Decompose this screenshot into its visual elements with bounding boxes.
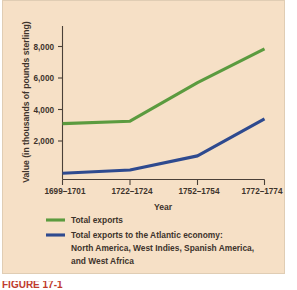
series-line-atlantic-economy [63, 119, 265, 173]
legend-label-atlantic-economy-line2: North America, West Indies, Spanish Amer… [71, 243, 254, 253]
figure-root: 8,000 6,000 4,000 2,000 Value (in thousa… [0, 0, 297, 290]
y-tick-label-2000: 2,000 [34, 137, 55, 146]
y-tick-label-4000: 4,000 [34, 106, 55, 115]
y-axis-title: Value (in thousands of pounds sterling) [21, 21, 31, 183]
figure-caption-text: FIGURE 17-1 [2, 281, 63, 290]
x-tick-label-2: 1752–1754 [179, 187, 220, 196]
chart-panel: 8,000 6,000 4,000 2,000 Value (in thousa… [2, 0, 285, 274]
x-axis-tick-labels: 1699–1701 1722–1724 1752–1754 1772–1774 [45, 187, 283, 196]
figure-caption: FIGURE 17-1 [2, 281, 285, 290]
y-axis-tick-labels: 8,000 6,000 4,000 2,000 [34, 43, 55, 147]
y-tick-label-8000: 8,000 [34, 43, 55, 52]
y-tick-label-6000: 6,000 [34, 74, 55, 83]
x-tick-label-0: 1699–1701 [45, 187, 86, 196]
y-axis-ticks [58, 47, 63, 142]
chart-legend: Total exports Total exports to the Atlan… [46, 215, 254, 266]
legend-label-atlantic-economy-line3: and West Africa [71, 256, 134, 266]
x-axis-ticks [63, 180, 265, 186]
x-tick-label-1: 1722–1724 [112, 187, 153, 196]
legend-label-atlantic-economy-line1: Total exports to the Atlantic economy: [71, 230, 223, 240]
x-axis-title: Year [154, 202, 173, 212]
legend-label-total-exports: Total exports [71, 215, 123, 225]
x-tick-label-3: 1772–1774 [242, 187, 283, 196]
line-chart: 8,000 6,000 4,000 2,000 Value (in thousa… [3, 1, 286, 275]
series-line-total-exports [63, 49, 265, 124]
